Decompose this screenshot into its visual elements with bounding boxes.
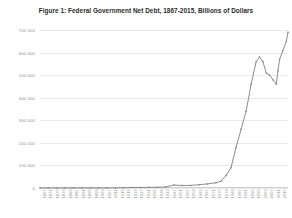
x-axis-labels: 1867187118751879188318871891189518991903… bbox=[40, 189, 288, 217]
x-axis-tick-label: 1871 bbox=[48, 189, 53, 199]
x-axis-tick-label: 1971 bbox=[211, 189, 216, 199]
x-axis-tick-label: 2003 bbox=[263, 189, 268, 199]
y-axis-tick-label: 600 000 bbox=[19, 50, 35, 55]
x-axis-tick-label: 1959 bbox=[191, 189, 196, 199]
y-axis-tick-label: 300 000 bbox=[19, 118, 35, 123]
x-axis-tick-label: 1951 bbox=[178, 189, 183, 199]
debt-series bbox=[40, 30, 288, 188]
series-markers bbox=[39, 31, 289, 189]
x-axis-tick-label: 1867 bbox=[42, 189, 47, 199]
x-axis-tick-label: 2015 bbox=[282, 189, 287, 199]
x-axis-tick-label: 1963 bbox=[198, 189, 203, 199]
chart-title: Figure 1: Federal Government Net Debt, 1… bbox=[30, 6, 262, 16]
x-axis-tick-label: 1919 bbox=[126, 189, 131, 199]
series-marker bbox=[190, 184, 192, 186]
y-axis-tick-label: 0 bbox=[33, 186, 36, 191]
y-axis-tick-label: 400 000 bbox=[19, 95, 35, 100]
x-axis-tick-label: 1903 bbox=[100, 189, 105, 199]
plot-area bbox=[40, 30, 288, 188]
x-axis-tick-label: 1967 bbox=[204, 189, 209, 199]
y-axis-tick-label: 500 000 bbox=[19, 73, 35, 78]
x-axis-tick-label: 1891 bbox=[81, 189, 86, 199]
x-axis-tick-label: 1955 bbox=[185, 189, 190, 199]
x-axis-tick-label: 1995 bbox=[250, 189, 255, 199]
y-axis-tick-label: 200 000 bbox=[19, 140, 35, 145]
y-axis-labels: 0100 000200 000300 000400 000500 000600 … bbox=[0, 30, 38, 188]
x-axis-tick-label: 1875 bbox=[55, 189, 60, 199]
y-axis-tick-label: 700 000 bbox=[19, 28, 35, 33]
x-axis-tick-label: 1915 bbox=[120, 189, 125, 199]
x-axis-tick-label: 2011 bbox=[276, 189, 281, 198]
x-axis-tick-label: 1899 bbox=[94, 189, 99, 199]
series-marker bbox=[287, 31, 289, 33]
x-axis-tick-label: 1943 bbox=[165, 189, 170, 199]
series-marker bbox=[245, 110, 247, 112]
x-axis-tick-label: 1907 bbox=[107, 189, 112, 199]
x-axis-tick-label: 1923 bbox=[133, 189, 138, 199]
y-axis-tick-label: 100 000 bbox=[19, 163, 35, 168]
x-axis-tick-label: 2007 bbox=[269, 189, 274, 199]
series-marker bbox=[235, 146, 237, 148]
x-axis-tick-label: 1931 bbox=[146, 189, 151, 199]
x-axis-tick-label: 1927 bbox=[139, 189, 144, 199]
series-marker bbox=[198, 184, 200, 186]
x-axis-tick-label: 1991 bbox=[243, 189, 248, 199]
x-axis-tick-label: 1935 bbox=[152, 189, 157, 199]
series-marker bbox=[240, 128, 242, 130]
x-axis-tick-label: 1887 bbox=[74, 189, 79, 199]
x-axis-tick-label: 1947 bbox=[172, 189, 177, 199]
series-marker bbox=[207, 183, 209, 185]
chart-figure: Figure 1: Federal Government Net Debt, 1… bbox=[0, 0, 292, 218]
series-marker bbox=[215, 182, 217, 184]
x-axis-tick-label: 1983 bbox=[230, 189, 235, 199]
x-axis-tick-label: 1987 bbox=[237, 189, 242, 199]
x-axis-tick-label: 1883 bbox=[68, 189, 73, 199]
x-axis-tick-label: 1975 bbox=[217, 189, 222, 199]
series-line bbox=[40, 32, 288, 188]
x-axis-tick-label: 1999 bbox=[256, 189, 261, 199]
x-axis-tick-label: 1895 bbox=[87, 189, 92, 199]
series-marker bbox=[250, 83, 252, 85]
series-marker bbox=[181, 184, 183, 186]
series-marker bbox=[277, 70, 279, 72]
x-axis-tick-label: 1879 bbox=[61, 189, 66, 199]
series-marker bbox=[173, 184, 175, 186]
x-axis-tick-label: 1939 bbox=[159, 189, 164, 199]
x-axis-tick-label: 1911 bbox=[113, 189, 118, 198]
x-axis-tick-label: 1979 bbox=[224, 189, 229, 199]
